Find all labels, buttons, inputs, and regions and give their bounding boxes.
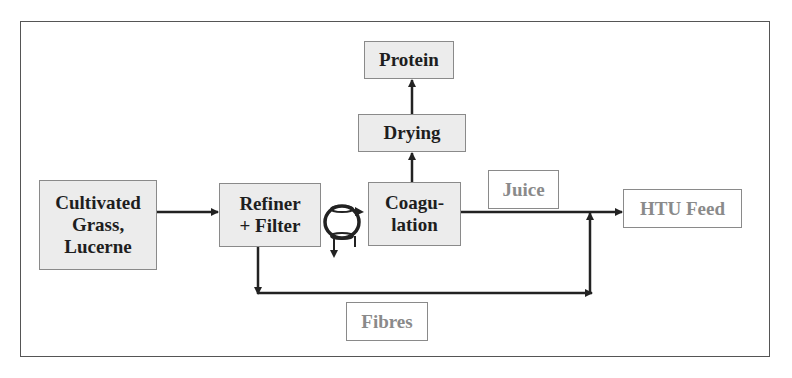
node-feedstock-line2: Grass, bbox=[72, 214, 124, 236]
node-drying-label: Drying bbox=[384, 122, 441, 144]
node-protein-label: Protein bbox=[379, 49, 439, 71]
node-refiner-line1: Refiner bbox=[239, 193, 300, 215]
node-coagulation-line2: lation bbox=[391, 214, 437, 236]
node-feedstock: Cultivated Grass, Lucerne bbox=[39, 180, 157, 270]
node-coagulation: Coagu- lation bbox=[368, 182, 461, 246]
node-htu-feed: HTU Feed bbox=[623, 189, 742, 228]
node-feedstock-line3: Lucerne bbox=[64, 236, 132, 258]
node-refiner-line2: + Filter bbox=[240, 215, 301, 237]
node-drying: Drying bbox=[358, 114, 466, 152]
node-refiner: Refiner + Filter bbox=[219, 183, 321, 247]
recycle-loop-icon bbox=[325, 206, 364, 258]
label-fibres: Fibres bbox=[346, 302, 428, 341]
node-feedstock-line1: Cultivated bbox=[55, 192, 141, 214]
label-juice: Juice bbox=[488, 170, 559, 209]
label-juice-text: Juice bbox=[502, 179, 544, 201]
node-htu-feed-label: HTU Feed bbox=[640, 198, 725, 220]
label-fibres-text: Fibres bbox=[361, 311, 412, 333]
node-coagulation-line1: Coagu- bbox=[385, 192, 444, 214]
node-protein: Protein bbox=[364, 41, 454, 79]
